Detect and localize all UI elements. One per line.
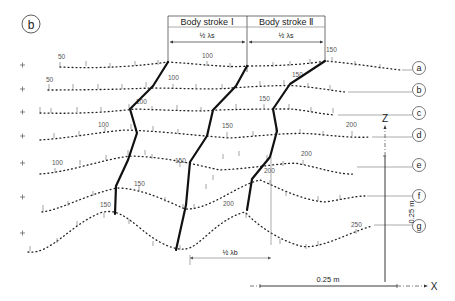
origin-markers xyxy=(20,63,25,236)
curve-e xyxy=(40,156,355,174)
row-label-e: e xyxy=(416,160,421,170)
svg-text:200: 200 xyxy=(264,167,275,174)
half-lambda-s-2: ½ λs xyxy=(279,32,294,39)
svg-text:150: 150 xyxy=(259,95,270,102)
svg-text:b: b xyxy=(28,18,35,32)
curve-b xyxy=(48,86,345,92)
panel-label: b xyxy=(22,15,40,33)
svg-text:100: 100 xyxy=(168,74,179,81)
curve-f xyxy=(42,180,365,212)
svg-text:150: 150 xyxy=(222,122,233,129)
row-label-a: a xyxy=(416,63,421,73)
x-scale-label: 0.25 m xyxy=(317,275,340,284)
curve-c xyxy=(40,109,335,115)
z-scale-label: 0.25 m xyxy=(407,201,416,224)
body-wave-lines xyxy=(115,61,325,250)
svg-text:X: X xyxy=(431,281,438,292)
half-lambda-s-1: ½ λs xyxy=(200,32,215,39)
curve-g xyxy=(28,211,372,252)
x-axis: X 0.25 m xyxy=(250,275,438,292)
svg-text:150: 150 xyxy=(175,157,186,164)
svg-text:100: 100 xyxy=(202,52,213,59)
row-label-d: d xyxy=(416,130,421,140)
body-stroke-1-label: Body stroke Ⅰ xyxy=(180,17,233,27)
half-lambda-b-dimension: ½ λb xyxy=(190,249,271,260)
svg-text:50: 50 xyxy=(58,53,66,60)
svg-text:100: 100 xyxy=(98,121,109,128)
svg-text:250: 250 xyxy=(351,221,362,228)
svg-text:150: 150 xyxy=(134,180,145,187)
midline-curves xyxy=(28,61,400,252)
body-stroke-2-label: Body stroke Ⅱ xyxy=(259,17,313,27)
row-label-c: c xyxy=(417,108,422,118)
svg-text:50: 50 xyxy=(46,76,54,83)
wave-line-2 xyxy=(176,66,247,250)
row-numbers: 50 100 150 50 100 150 100 150 100 150 20… xyxy=(46,46,362,228)
svg-text:200: 200 xyxy=(223,200,234,207)
svg-text:100: 100 xyxy=(52,159,63,166)
svg-text:½ λb: ½ λb xyxy=(222,249,237,256)
row-label-b: b xyxy=(416,85,421,95)
svg-text:200: 200 xyxy=(346,121,357,128)
svg-text:Z: Z xyxy=(382,113,388,124)
fish-body-stroke-diagram: b Body stroke Ⅰ Body stroke Ⅱ ½ λs ½ λs xyxy=(0,0,455,301)
svg-text:150: 150 xyxy=(100,201,111,208)
z-axis: Z 0.25 m xyxy=(382,113,416,282)
svg-text:200: 200 xyxy=(301,150,312,157)
row-label-g: g xyxy=(416,221,421,231)
svg-text:150: 150 xyxy=(326,46,337,53)
